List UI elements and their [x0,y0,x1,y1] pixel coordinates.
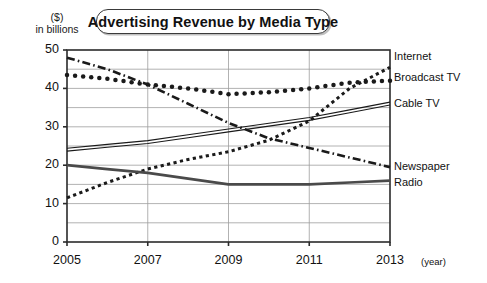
series-label-radio: Radio [394,176,423,188]
x-tick-label: 2005 [37,253,97,267]
y-tick-label: 50 [29,42,59,56]
chart-svg [0,0,487,283]
series-label-cable-tv: Cable TV [394,97,440,109]
x-tick-label: 2011 [279,253,339,267]
y-tick-label: 30 [29,119,59,133]
x-tick-label: 2007 [118,253,178,267]
x-axis-unit-label: (year) [421,256,446,267]
series-label-newspaper: Newspaper [394,160,450,172]
y-tick-label: 40 [29,80,59,94]
x-tick-label: 2013 [360,253,420,267]
plot-area [0,0,487,283]
series-label-internet: Internet [394,50,431,62]
y-tick-label: 20 [29,157,59,171]
series-label-broadcast-tv: Broadcast TV [394,71,460,83]
x-tick-label: 2009 [199,253,259,267]
chart-page: ($) in billions Advertising Revenue by M… [0,0,487,283]
y-tick-label: 0 [29,234,59,248]
y-tick-label: 10 [29,196,59,210]
